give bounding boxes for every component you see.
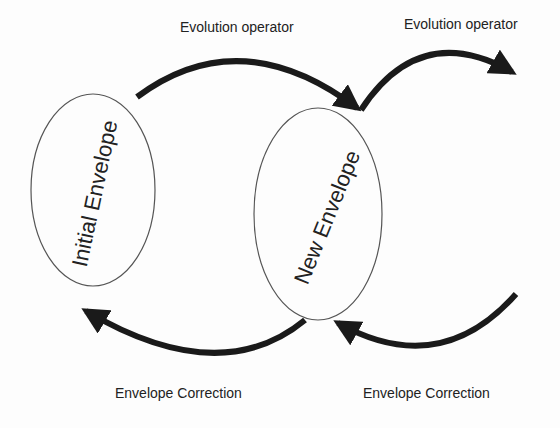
evolution-arrow-1 xyxy=(137,61,357,108)
evolution-label-2: Evolution operator xyxy=(404,16,518,32)
new-envelope-label: New Envelope xyxy=(289,147,365,288)
correction-label-1: Envelope Correction xyxy=(115,385,242,401)
initial-envelope-label: Initial Envelope xyxy=(67,118,122,269)
evolution-arrow-2 xyxy=(361,53,512,110)
correction-arrow-1 xyxy=(86,311,305,353)
evolution-label-1: Evolution operator xyxy=(180,19,294,35)
correction-arrow-2 xyxy=(338,294,516,346)
diagram-canvas: Evolution operator Evolution operator En… xyxy=(0,0,560,428)
diagram-svg: Evolution operator Evolution operator En… xyxy=(0,0,560,428)
correction-label-2: Envelope Correction xyxy=(363,385,490,401)
